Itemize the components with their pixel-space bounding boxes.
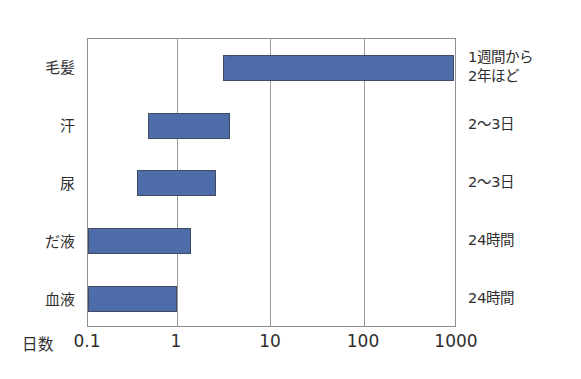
annotation-blood: 24時間 <box>456 289 514 308</box>
annotation-saliva: 24時間 <box>456 231 514 250</box>
category-label-urine: 尿 <box>60 172 83 193</box>
category-label-slot: 血液 <box>0 269 83 327</box>
bar-row-saliva <box>88 212 455 270</box>
category-label-hair: 毛髪 <box>45 56 83 77</box>
annotation-urine: 2〜3日 <box>456 173 514 192</box>
bar-saliva <box>88 228 191 254</box>
bar-urine <box>137 170 216 196</box>
bar-row-sweat <box>88 97 455 155</box>
category-label-slot: 汗 <box>0 96 83 154</box>
bar-blood <box>88 286 177 312</box>
annotation-hair: 1週間から 2年ほど <box>456 48 533 86</box>
bar-hair <box>223 55 454 81</box>
category-label-slot: だ液 <box>0 211 83 269</box>
bar-sweat <box>148 113 230 139</box>
annotation-slot: 2〜3日 <box>456 96 581 154</box>
category-label-slot: 尿 <box>0 154 83 212</box>
x-axis-title: 日数 <box>22 332 54 354</box>
annotation-slot: 2〜3日 <box>456 154 581 212</box>
bar-row-hair <box>88 39 455 97</box>
annotation-sweat: 2〜3日 <box>456 115 514 134</box>
x-tick-100: 100 <box>347 331 379 351</box>
annotation-slot: 24時間 <box>456 211 581 269</box>
bar-row-blood <box>88 270 455 328</box>
annotation-slot: 1週間から 2年ほど <box>456 38 581 96</box>
plot-area <box>87 38 456 327</box>
category-label-slot: 毛髪 <box>0 38 83 96</box>
x-tick-10: 10 <box>259 331 281 351</box>
category-label-blood: 血液 <box>45 288 83 309</box>
annotation-column: 1週間から 2年ほど 2〜3日 2〜3日 24時間 24時間 <box>456 38 581 327</box>
annotation-slot: 24時間 <box>456 269 581 327</box>
category-label-saliva: だ液 <box>45 230 83 251</box>
x-tick-1000: 1000 <box>434 331 477 351</box>
x-tick-1: 1 <box>171 331 182 351</box>
x-tick-0.1: 0.1 <box>73 331 100 351</box>
category-axis: 毛髪 汗 尿 だ液 血液 <box>0 38 83 327</box>
chart-figure: 毛髪 汗 尿 だ液 血液 <box>0 0 581 379</box>
bar-row-urine <box>88 155 455 213</box>
category-label-sweat: 汗 <box>60 114 83 135</box>
